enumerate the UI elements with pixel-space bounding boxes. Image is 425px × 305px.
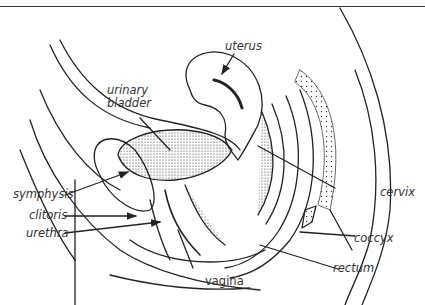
- label-clitoris: clitoris: [29, 209, 67, 222]
- label-cervix: cervix: [380, 186, 415, 199]
- label-urinary-bladder-1: urinary: [107, 84, 148, 97]
- label-vagina: vagina: [205, 275, 244, 288]
- coccyx-bone: [302, 206, 316, 228]
- label-rectum: rectum: [333, 262, 374, 275]
- bladder: [118, 130, 232, 181]
- sacrum: [295, 70, 336, 210]
- label-symphysis: symphysis: [13, 188, 74, 201]
- rectum-wall: [230, 90, 313, 278]
- label-coccyx: coccyx: [354, 232, 394, 245]
- label-uterus: uterus: [225, 40, 262, 53]
- anatomy-illustration: [0, 0, 425, 305]
- label-urinary-bladder-2: bladder: [107, 97, 151, 110]
- label-urethra: urethra: [26, 227, 69, 240]
